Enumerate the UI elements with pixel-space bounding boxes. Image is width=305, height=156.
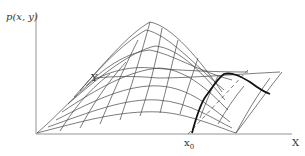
slice-position-label: x0 bbox=[184, 138, 194, 151]
x-axis-label: X bbox=[292, 138, 299, 148]
y-axis-label: p(x, y) bbox=[6, 12, 38, 22]
y-direction-label: Y bbox=[91, 73, 98, 83]
wireframe-surface bbox=[0, 0, 305, 156]
axes bbox=[36, 12, 292, 134]
mesh-lines bbox=[37, 22, 282, 133]
